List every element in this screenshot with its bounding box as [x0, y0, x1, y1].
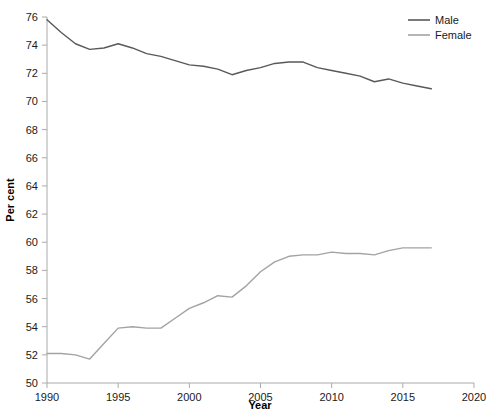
line-chart: 5052545658606264666870727476 19901995200… [0, 0, 488, 416]
y-tick-label: 70 [26, 95, 38, 107]
y-tick-label: 66 [26, 152, 38, 164]
x-tick-label: 1995 [106, 391, 130, 403]
series-lines [47, 20, 431, 359]
y-tick-label: 68 [26, 124, 38, 136]
x-tick-label: 2015 [391, 391, 415, 403]
y-tick-label: 60 [26, 236, 38, 248]
y-tick-label: 74 [26, 39, 38, 51]
x-tick-label: 2010 [319, 391, 343, 403]
legend-label-male: Male [435, 14, 459, 26]
y-tick-label: 76 [26, 11, 38, 23]
series-line-male [47, 20, 431, 89]
series-line-female [47, 248, 431, 359]
x-tick-label: 2000 [177, 391, 201, 403]
x-tick-label: 1990 [35, 391, 59, 403]
y-tick-label: 56 [26, 293, 38, 305]
y-tick-label: 64 [26, 180, 38, 192]
y-tick-label: 52 [26, 349, 38, 361]
y-axis-title: Per cent [4, 178, 16, 222]
chart-canvas: 5052545658606264666870727476 19901995200… [0, 0, 488, 416]
legend-label-female: Female [435, 29, 472, 41]
x-axis-title: Year [248, 399, 272, 411]
legend: MaleFemale [408, 14, 472, 41]
y-tick-label: 50 [26, 377, 38, 389]
y-tick-label: 54 [26, 321, 38, 333]
y-tick-label: 62 [26, 208, 38, 220]
y-tick-label: 72 [26, 67, 38, 79]
y-tick-label: 58 [26, 264, 38, 276]
y-axis-ticks: 5052545658606264666870727476 [26, 11, 47, 389]
x-tick-label: 2020 [462, 391, 486, 403]
